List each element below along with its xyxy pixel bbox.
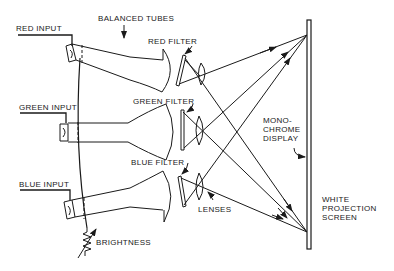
white-projection-screen-label: WHITE PROJECTION SCREEN bbox=[322, 195, 377, 222]
green-input-label: GREEN INPUT bbox=[19, 103, 77, 112]
blue-input-label: BLUE INPUT bbox=[19, 180, 69, 189]
blue-filter-label: BLUE FILTER bbox=[131, 158, 184, 167]
green-filter-label: GREEN FILTER bbox=[133, 97, 194, 106]
red-input-label: RED INPUT bbox=[16, 24, 62, 33]
red-filter-label: RED FILTER bbox=[148, 37, 197, 46]
red-filter bbox=[176, 55, 186, 86]
green-input-wire bbox=[20, 113, 66, 123]
blue-tube bbox=[64, 171, 171, 222]
lenses-label: LENSES bbox=[198, 205, 231, 214]
balanced-tubes-label: BALANCED TUBES bbox=[98, 14, 174, 23]
green-filter bbox=[181, 110, 184, 150]
blue-input-wire bbox=[20, 190, 70, 200]
brightness-wiper bbox=[78, 229, 96, 258]
blue-filter bbox=[178, 176, 186, 207]
red-input-wire bbox=[18, 35, 72, 46]
brightness-label: BRIGHTNESS bbox=[96, 238, 151, 247]
brightness-potentiometer bbox=[83, 228, 91, 256]
monochrome-display-label: MONO- CHROME DISPLAY bbox=[263, 116, 300, 143]
brightness-bus bbox=[78, 58, 87, 228]
green-tube bbox=[60, 104, 173, 160]
red-tube bbox=[66, 44, 170, 92]
white-projection-screen bbox=[307, 20, 311, 249]
